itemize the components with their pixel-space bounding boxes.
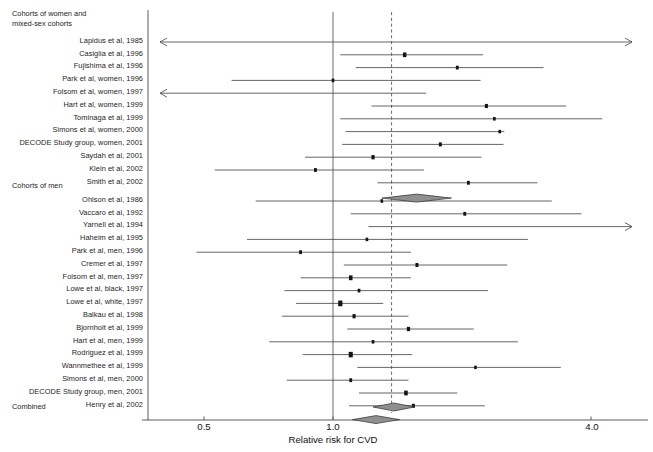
study-label: Bjornholt et al, 1999: [0, 324, 143, 332]
point-estimate-marker: [404, 391, 408, 396]
study-label: Smith et al, 2002: [0, 178, 143, 186]
point-estimate-marker: [353, 314, 356, 318]
study-label: DECODE Study group, women, 2001: [0, 139, 143, 147]
point-estimate-marker: [349, 378, 352, 382]
study-label: Henry et al, 2002: [0, 401, 143, 409]
study-label: Simons et al, women, 2000: [0, 126, 143, 134]
study-label: Rodriguez et al, 1999: [0, 349, 143, 357]
x-axis-title: Relative risk for CVD: [273, 434, 393, 445]
group-heading-women-line2: mixed-sex cohorts: [12, 19, 86, 29]
point-estimate-marker: [338, 301, 342, 307]
point-estimate-marker: [371, 155, 374, 159]
point-estimate-marker: [381, 199, 384, 203]
group-heading-women: Cohorts of women and mixed-sex cohorts: [12, 9, 86, 28]
point-estimate-marker: [349, 275, 353, 280]
group-heading-women-line1: Cohorts of women and: [12, 9, 86, 19]
study-label: Cremer et al, 1997: [0, 260, 143, 268]
point-estimate-marker: [407, 327, 410, 331]
study-label: Tominaga et al, 1999: [0, 114, 143, 122]
point-estimate-marker: [474, 366, 477, 369]
x-tick-label-1: 1.0: [313, 421, 353, 432]
study-label: Lowe et al, black, 1997: [0, 285, 143, 293]
study-label: Lowe et al, white, 1997: [0, 298, 143, 306]
study-label: Folsom et al, men, 1997: [0, 273, 143, 281]
study-label: Wannmethee et al, 1999: [0, 362, 143, 370]
point-estimate-marker: [463, 212, 466, 216]
study-label: Park et al, women, 1996: [0, 75, 143, 83]
point-estimate-marker: [403, 52, 406, 57]
study-label: Hart et al, women, 1999: [0, 101, 143, 109]
study-label: Haheim et al, 1995: [0, 234, 143, 242]
study-label: Saydah et al, 2001: [0, 152, 143, 160]
study-label: Fujishima et al, 1996: [0, 62, 143, 70]
point-estimate-marker: [332, 79, 335, 83]
study-label: Casiglia et al, 1996: [0, 50, 143, 58]
point-estimate-marker: [467, 181, 470, 185]
study-label: Klein et al, 2002: [0, 165, 143, 173]
point-estimate-marker: [372, 340, 375, 344]
study-label: Hart et al, men, 1999: [0, 337, 143, 345]
point-estimate-marker: [299, 250, 302, 254]
subtotal-diamond-men: [352, 416, 399, 424]
point-estimate-marker: [493, 117, 496, 121]
study-label: Balkau et al, 1998: [0, 311, 143, 319]
point-estimate-marker: [358, 289, 361, 293]
study-label: Vaccaro et al, 1992: [0, 209, 143, 217]
x-tick-label-2: 4.0: [572, 421, 612, 432]
point-estimate-marker: [349, 352, 353, 357]
point-estimate-marker: [439, 142, 442, 146]
forest-plot: Cohorts of women and mixed-sex cohorts C…: [0, 0, 653, 452]
study-label: Ohlson et al, 1986: [0, 196, 143, 204]
point-estimate-marker: [485, 104, 488, 108]
point-estimate-marker: [456, 66, 459, 70]
study-label: DECODE Study group, men, 2001: [0, 388, 143, 396]
study-label: Lapidus et al, 1985: [0, 37, 143, 45]
study-label: Yarnell et al, 1994: [0, 221, 143, 229]
point-estimate-marker: [366, 238, 369, 242]
point-estimate-marker: [415, 263, 418, 267]
study-label: Folsom et al, women, 1997: [0, 88, 143, 96]
study-label: Park et al, men, 1996: [0, 247, 143, 255]
x-tick-label-0: 0.5: [184, 421, 224, 432]
point-estimate-marker: [498, 130, 501, 134]
combined-diamond: [373, 403, 415, 411]
point-estimate-marker: [314, 168, 317, 172]
study-label: Simons et al, men, 2000: [0, 375, 143, 383]
